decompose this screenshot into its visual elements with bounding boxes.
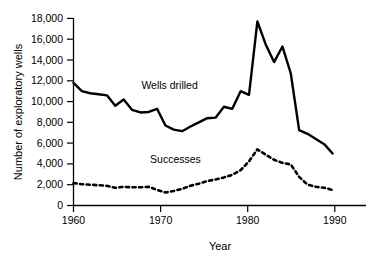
x-tick-label-1970: 1970	[149, 214, 173, 226]
y-tick-label-0: 0	[57, 199, 63, 211]
y-tick-label-18000: 18,000	[31, 12, 63, 24]
y-tick-label-14000: 14,000	[31, 54, 63, 66]
x-tick-label-1990: 1990	[323, 214, 347, 226]
x-axis-title: Year	[209, 240, 232, 252]
chart-figure: 0 2,000 4,000 6,000 8,000 10,000 12,000 …	[0, 0, 373, 259]
y-tick-label-4000: 4,000	[37, 157, 63, 169]
y-tick-label-10000: 10,000	[31, 95, 63, 107]
y-tick-label-2000: 2,000	[37, 178, 63, 190]
y-tick-label-8000: 8,000	[37, 116, 63, 128]
series-label-wells-drilled: Wells drilled	[141, 79, 198, 91]
x-tick-label-1980: 1980	[236, 214, 260, 226]
y-tick-label-6000: 6,000	[37, 137, 63, 149]
line-chart-canvas: 0 2,000 4,000 6,000 8,000 10,000 12,000 …	[0, 0, 373, 259]
y-tick-label-16000: 16,000	[31, 33, 63, 45]
y-axis-title: Number of exploratory wells	[12, 43, 24, 180]
series-label-successes: Successes	[150, 153, 201, 165]
x-tick-label-1960: 1960	[62, 214, 86, 226]
y-tick-label-12000: 12,000	[31, 74, 63, 86]
